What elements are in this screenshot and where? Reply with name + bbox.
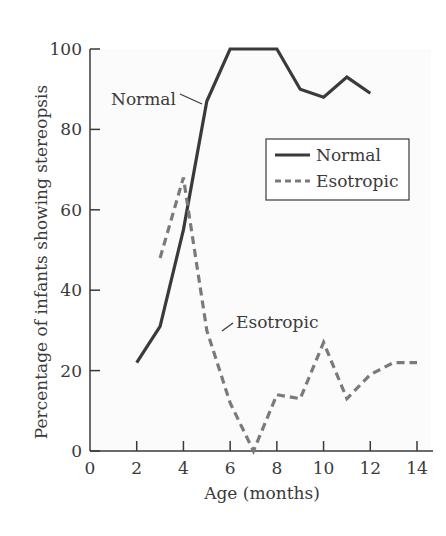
chart-canvas: 020406080100 02468101214 Age (months) Pe…	[0, 0, 446, 536]
x-tick-label: 0	[85, 458, 96, 478]
y-tick-label: 80	[60, 119, 82, 139]
legend: Normal Esotropic	[266, 139, 409, 200]
y-axis-title: Percentage of infants showing stereopsis	[31, 85, 51, 439]
legend-label-esotropic: Esotropic	[316, 171, 398, 191]
x-tick-label: 6	[225, 458, 236, 478]
y-tick-label: 20	[60, 361, 82, 381]
y-tick-label: 60	[60, 200, 82, 220]
x-tick-label: 4	[178, 458, 189, 478]
x-tick-label: 8	[271, 458, 282, 478]
annotation-normal-label: Normal	[111, 89, 176, 109]
plot-area	[91, 49, 431, 451]
annotation-esotropic: Esotropic	[222, 312, 318, 332]
legend-label-normal: Normal	[316, 145, 381, 165]
x-tick-label: 14	[406, 458, 428, 478]
x-tick-label: 10	[313, 458, 335, 478]
y-tick-label: 0	[71, 441, 82, 461]
x-axis-title: Age (months)	[203, 483, 320, 503]
annotation-esotropic-label: Esotropic	[236, 312, 318, 332]
y-tick-label: 40	[60, 280, 82, 300]
x-tick-label: 12	[359, 458, 381, 478]
x-tick-label: 2	[131, 458, 142, 478]
line-chart: 020406080100 02468101214 Age (months) Pe…	[0, 0, 446, 536]
y-tick-label: 100	[50, 39, 82, 59]
